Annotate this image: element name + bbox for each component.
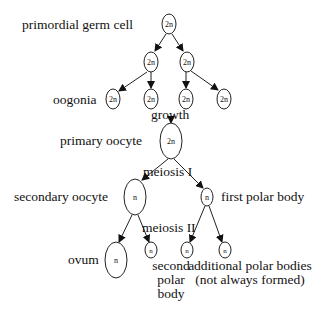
label-secondary-oocyte: secondary oocyte [14, 189, 108, 204]
svg-text:n: n [223, 247, 227, 255]
svg-text:2n: 2n [109, 95, 117, 104]
svg-text:2n: 2n [167, 137, 175, 146]
svg-text:2n: 2n [182, 95, 190, 104]
svg-text:2n: 2n [165, 20, 173, 29]
label-second-polar-line1: second [152, 258, 190, 273]
node-first-polar-body: n [201, 188, 213, 206]
label-meiosis-2: meiosis II [142, 220, 196, 235]
node-additional-polar-2: n [219, 242, 231, 258]
label-primordial-germ-cell: primordial germ cell [22, 17, 133, 32]
label-second-polar-line3: body [158, 286, 185, 301]
svg-text:2n: 2n [220, 95, 228, 104]
label-additional-line1: additional polar bodies [188, 258, 312, 273]
node-oogonia-4: 2n [217, 89, 231, 109]
edge-root-l1b [172, 34, 183, 51]
label-first-polar-body: first polar body [221, 189, 304, 204]
label-growth: growth [151, 107, 189, 122]
node-oogonia-3: 2n [179, 89, 193, 109]
node-oogonia-1: 2n [106, 89, 120, 109]
node-oogonia-2: 2n [144, 89, 158, 109]
node-primary-oocyte: 2n [160, 123, 182, 159]
label-additional-line2: (not always formed) [195, 272, 304, 287]
edge-secondary-ovum [119, 215, 132, 242]
node-secondary-oocyte: n [124, 179, 146, 215]
svg-text:2n: 2n [147, 58, 155, 67]
svg-text:n: n [114, 256, 118, 265]
node-l1a: 2n [144, 52, 158, 72]
label-ovum: ovum [68, 252, 99, 267]
svg-text:n: n [205, 193, 209, 202]
label-oogonia: oogonia [53, 92, 97, 107]
svg-text:n: n [185, 247, 189, 255]
node-l1b: 2n [180, 52, 194, 72]
node-additional-polar-1: n [181, 242, 193, 258]
oogenesis-diagram: 2n 2n 2n 2n 2n 2n 2n 2n n n n n [0, 0, 327, 316]
label-meiosis-1: meiosis I [143, 164, 193, 179]
node-root: 2n [162, 14, 176, 34]
edge-l1a-l2a [119, 72, 147, 91]
edge-l1b-l2d [191, 71, 218, 90]
edge-root-l1a [155, 34, 166, 51]
label-primary-oocyte: primary oocyte [60, 133, 142, 148]
edge-firstpolar-add2 [209, 206, 222, 242]
label-second-polar-line2: polar [157, 272, 185, 287]
svg-text:n: n [149, 247, 153, 255]
svg-text:n: n [133, 193, 137, 202]
node-ovum: n [105, 242, 127, 278]
svg-text:2n: 2n [147, 95, 155, 104]
node-second-polar-body: n [145, 242, 157, 258]
svg-text:2n: 2n [183, 58, 191, 67]
